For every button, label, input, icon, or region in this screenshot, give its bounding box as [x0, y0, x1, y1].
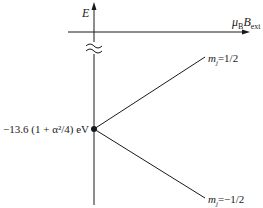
upper-level-label: mj=1/2	[208, 52, 238, 67]
energy-axis-arrow-icon	[92, 2, 97, 10]
field-axis-label: μBBext	[231, 15, 261, 31]
origin-energy-label: −13.6 (1 + α²/4) eV	[3, 123, 89, 136]
origin-dot	[91, 126, 97, 132]
axis-break-icon	[85, 42, 103, 54]
level-line-lower	[94, 129, 205, 198]
energy-axis-label: E	[81, 6, 90, 20]
lower-level-label: mj=−1/2	[208, 193, 244, 208]
zeeman-diagram: E μBBext mj=1/2 mj=−1/2 −13.6 (1 + α²/4)…	[0, 0, 263, 208]
level-line-upper	[94, 57, 205, 129]
